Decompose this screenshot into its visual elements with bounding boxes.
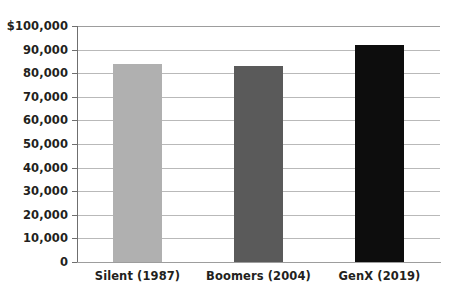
y-axis-tick (72, 73, 77, 74)
y-axis-tick-label: 80,000 (2, 66, 68, 80)
bar (355, 45, 404, 262)
y-axis-tick-label: 0 (2, 255, 68, 269)
y-axis-tick-label: 20,000 (2, 208, 68, 222)
x-axis-category-label: Boomers (2004) (198, 269, 319, 283)
y-axis-tick-label: 50,000 (2, 137, 68, 151)
y-axis-tick (72, 262, 77, 263)
y-axis-tick (72, 215, 77, 216)
plot-area (77, 26, 440, 262)
y-axis-labels-group: 010,00020,00030,00040,00050,00060,00070,… (0, 0, 68, 296)
y-axis-tick (72, 191, 77, 192)
y-axis-tick (72, 168, 77, 169)
x-axis-category-label: Silent (1987) (77, 269, 198, 283)
bar (113, 64, 162, 262)
y-axis-tick (72, 144, 77, 145)
y-axis-tick (72, 50, 77, 51)
y-axis-tick (72, 26, 77, 27)
y-axis-tick (72, 97, 77, 98)
y-axis-tick-label: 90,000 (2, 43, 68, 57)
y-axis-tick-label: $100,000 (2, 19, 68, 33)
y-axis-tick (72, 120, 77, 121)
x-axis-line (77, 262, 441, 263)
x-axis-category-label: GenX (2019) (319, 269, 440, 283)
y-axis-tick-label: 60,000 (2, 113, 68, 127)
y-axis-tick-label: 10,000 (2, 231, 68, 245)
bar (234, 66, 283, 262)
y-axis-tick-label: 30,000 (2, 184, 68, 198)
gridline (77, 26, 440, 27)
y-axis-tick-label: 70,000 (2, 90, 68, 104)
bar-chart: 010,00020,00030,00040,00050,00060,00070,… (0, 0, 462, 296)
y-axis-tick-label: 40,000 (2, 161, 68, 175)
y-axis-tick (72, 238, 77, 239)
y-axis-line (77, 26, 78, 263)
